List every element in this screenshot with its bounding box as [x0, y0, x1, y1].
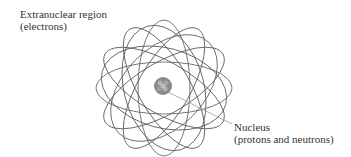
label-line: Nucleus [234, 121, 334, 133]
extranuclear-region-label: Extranuclear region (electrons) [20, 8, 107, 32]
nucleus [154, 77, 172, 95]
label-line: (electrons) [20, 20, 107, 32]
label-line: Extranuclear region [20, 8, 107, 20]
nucleus-label: Nucleus (protons and neutrons) [234, 121, 334, 145]
label-line: (protons and neutrons) [234, 133, 334, 145]
